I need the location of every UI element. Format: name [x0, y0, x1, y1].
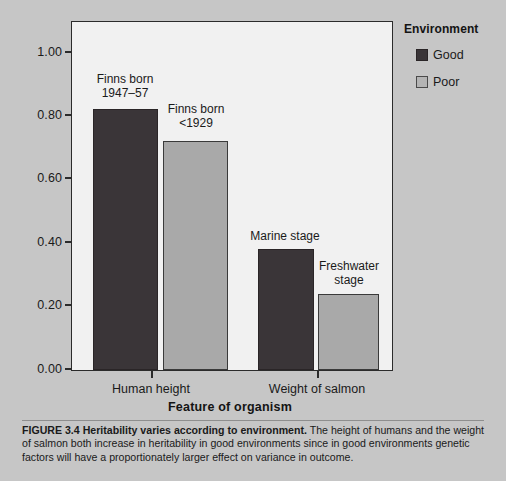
- x-tick-mark-weight-of-salmon: [317, 371, 319, 378]
- legend-item-poor[interactable]: Poor: [416, 75, 504, 89]
- legend-label-poor: Poor: [433, 75, 459, 89]
- bar-human-height-poor[interactable]: [163, 141, 228, 370]
- y-tick-label-0.60: 0.60: [22, 171, 62, 185]
- legend-item-good[interactable]: Good: [416, 48, 504, 62]
- bar-annotation-freshwater-stage: Freshwater stage: [294, 259, 404, 287]
- legend: Environment Good Poor: [404, 22, 504, 102]
- bar-annotation-finns-pre-1929: Finns born <1929: [141, 102, 251, 130]
- caption-title: Heritability varies according to environ…: [83, 424, 307, 436]
- figure-panel: 1.00 0.80 0.60 0.40 0.20 0.00 Mean herit…: [0, 0, 506, 481]
- bar-weight-of-salmon-poor[interactable]: [318, 294, 379, 370]
- y-tick-label-0.20: 0.20: [22, 298, 62, 312]
- legend-title: Environment: [404, 22, 504, 36]
- bar-annotation-marine-stage: Marine stage: [230, 229, 340, 243]
- y-tick-label-0.40: 0.40: [22, 235, 62, 249]
- x-tick-label-weight-of-salmon: Weight of salmon: [252, 382, 382, 396]
- y-tick-label-0.80: 0.80: [22, 108, 62, 122]
- legend-swatch-good-icon: [416, 49, 428, 61]
- legend-label-good: Good: [433, 48, 464, 62]
- x-axis-label: Feature of organism: [0, 400, 460, 414]
- caption-divider: [22, 420, 484, 421]
- y-tick-label-1.00: 1.00: [22, 45, 62, 59]
- y-tick-label-0.00: 0.00: [22, 362, 62, 376]
- legend-swatch-poor-icon: [416, 76, 428, 88]
- figure-caption: FIGURE 3.4 Heritability varies according…: [22, 424, 492, 464]
- x-tick-mark-human-height: [151, 371, 153, 378]
- caption-figure-label: FIGURE 3.4: [22, 424, 80, 436]
- bar-human-height-good[interactable]: [93, 109, 158, 370]
- x-tick-label-human-height: Human height: [91, 382, 211, 396]
- bar-annotation-finns-1947-57: Finns born 1947–57: [70, 72, 180, 100]
